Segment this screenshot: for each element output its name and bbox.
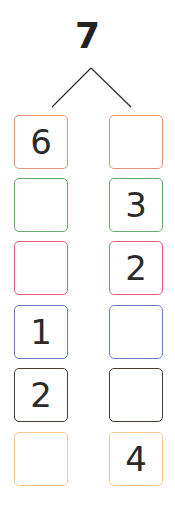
part-box-row1-left[interactable]: 6 [14,115,68,169]
part-box-row3-left[interactable] [14,241,68,295]
bond-lines [0,0,175,120]
part-box-row1-right[interactable] [109,115,163,169]
part-box-row4-left[interactable]: 1 [14,305,68,359]
part-box-row5-right[interactable] [109,368,163,422]
part-box-row5-left[interactable]: 2 [14,368,68,422]
part-box-row2-right[interactable]: 3 [109,178,163,232]
part-box-row2-left[interactable] [14,178,68,232]
part-box-row6-right[interactable]: 4 [109,432,163,486]
part-box-row3-right[interactable]: 2 [109,241,163,295]
part-box-row4-right[interactable] [109,305,163,359]
part-box-row6-left[interactable] [14,432,68,486]
